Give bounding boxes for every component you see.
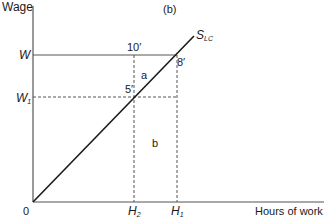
region-b-label: b [152, 138, 158, 149]
slc-label: SLC [196, 29, 213, 42]
y-tick-w1: W1 [16, 92, 31, 105]
x-axis-label: Hours of work [255, 206, 323, 217]
y-tick-w: W [19, 49, 30, 61]
point-5-label: 5′ [125, 84, 133, 95]
slc-supply-line [33, 36, 194, 202]
diagram-canvas [0, 0, 324, 219]
point-10-label: 10′ [127, 42, 141, 53]
x-tick-h1: H1 [171, 205, 184, 218]
y-axis-label: Wage [2, 1, 33, 13]
region-a-label: a [141, 70, 147, 81]
origin-label: 0 [23, 206, 29, 217]
point-8-label: 8′ [177, 57, 185, 68]
panel-label: (b) [163, 4, 176, 15]
x-tick-h2: H2 [128, 205, 141, 218]
